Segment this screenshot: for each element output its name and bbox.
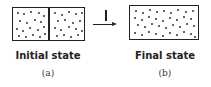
gas-particle bbox=[70, 36, 72, 38]
final-chamber bbox=[130, 6, 198, 39]
final-state-sublabel: (b) bbox=[125, 68, 205, 78]
gas-particle bbox=[135, 10, 137, 12]
gas-particle bbox=[176, 34, 178, 36]
gas-particle bbox=[134, 17, 136, 19]
gas-particle bbox=[162, 20, 164, 22]
gas-particle bbox=[44, 33, 46, 35]
gas-particle bbox=[148, 31, 150, 33]
gas-particle bbox=[32, 34, 34, 36]
initial-state-box bbox=[12, 7, 85, 41]
gas-particle bbox=[81, 12, 83, 14]
gas-particle bbox=[68, 11, 70, 13]
gas-particle bbox=[60, 29, 62, 31]
gas-particle bbox=[79, 20, 81, 22]
gas-particle bbox=[18, 35, 20, 37]
gas-particle bbox=[23, 13, 25, 15]
gas-particle bbox=[186, 23, 188, 25]
gas-particle bbox=[190, 18, 192, 20]
gas-particle bbox=[194, 36, 196, 38]
gas-particle bbox=[72, 22, 74, 24]
gas-particle bbox=[75, 13, 77, 15]
gas-particle bbox=[190, 33, 192, 35]
gas-particle bbox=[39, 36, 41, 38]
gas-particle bbox=[37, 29, 39, 31]
gas-particle bbox=[68, 26, 70, 28]
gas-particle bbox=[185, 11, 187, 13]
gas-particle bbox=[38, 12, 40, 14]
gas-particle bbox=[26, 22, 28, 24]
gas-particle bbox=[162, 35, 164, 37]
final-state-box bbox=[129, 5, 199, 40]
gas-particle bbox=[81, 30, 83, 32]
gas-particle bbox=[169, 17, 171, 19]
gas-particle bbox=[17, 12, 19, 14]
gas-particle bbox=[141, 19, 143, 21]
gas-particle bbox=[179, 26, 181, 28]
gas-particle bbox=[141, 34, 143, 36]
gas-particle bbox=[193, 25, 195, 27]
initial-state-sublabel: (a) bbox=[8, 68, 88, 78]
gas-particle bbox=[22, 30, 24, 32]
gas-particle bbox=[61, 14, 63, 16]
gas-particle bbox=[155, 33, 157, 35]
gas-particle bbox=[155, 18, 157, 20]
gas-particle bbox=[75, 28, 77, 30]
gas-particle bbox=[177, 9, 179, 11]
gas-particle bbox=[54, 12, 56, 14]
gas-particle bbox=[43, 15, 45, 17]
gas-particle bbox=[165, 27, 167, 29]
gas-particle bbox=[34, 19, 36, 21]
gas-particle bbox=[142, 12, 144, 14]
gas-particle bbox=[158, 25, 160, 27]
gas-particle bbox=[149, 9, 151, 11]
gas-particle bbox=[183, 31, 185, 33]
gas-particle bbox=[163, 10, 165, 12]
gas-particle bbox=[183, 16, 185, 18]
right-chamber bbox=[50, 8, 84, 39]
gas-particle bbox=[56, 35, 58, 37]
gas-particle bbox=[169, 32, 171, 34]
gas-particle bbox=[29, 27, 31, 29]
gas-particle bbox=[151, 23, 153, 25]
gas-particle bbox=[137, 24, 139, 26]
gas-particle bbox=[64, 19, 66, 21]
gas-particle bbox=[176, 19, 178, 21]
gas-particle bbox=[16, 28, 18, 30]
gas-particle bbox=[192, 10, 194, 12]
gas-particle bbox=[30, 11, 32, 13]
gas-particle bbox=[19, 20, 21, 22]
process-label bbox=[105, 10, 107, 21]
initial-state-title: Initial state bbox=[8, 50, 88, 61]
gas-particle bbox=[144, 26, 146, 28]
gas-particle bbox=[57, 20, 59, 22]
gas-particle bbox=[172, 24, 174, 26]
gas-particle bbox=[170, 12, 172, 14]
gas-particle bbox=[134, 32, 136, 34]
gas-particle bbox=[77, 34, 79, 36]
gas-particle bbox=[156, 11, 158, 13]
final-state-title: Final state bbox=[125, 50, 205, 61]
gas-particle bbox=[148, 16, 150, 18]
gas-particle bbox=[43, 26, 45, 28]
gas-particle bbox=[25, 36, 27, 38]
gas-particle bbox=[63, 34, 65, 36]
gas-particle bbox=[54, 27, 56, 29]
gas-particle bbox=[40, 21, 42, 23]
left-chamber bbox=[13, 8, 48, 39]
